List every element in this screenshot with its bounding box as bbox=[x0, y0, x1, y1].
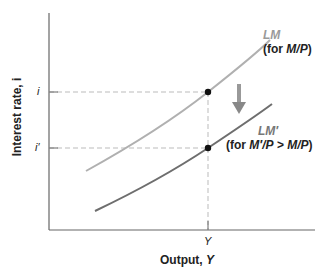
lmp-cond-pre: (for bbox=[226, 138, 249, 152]
x-axis-label-prefix: Output, bbox=[160, 253, 206, 267]
x-tick-y: Y bbox=[204, 235, 211, 247]
lm-prime-condition-label: (for M′/P > M/P) bbox=[226, 138, 313, 152]
lm-prime-curve bbox=[95, 104, 272, 211]
lm-condition-label: (for M/P) bbox=[263, 42, 312, 56]
lm-label: LM bbox=[263, 28, 280, 42]
lmp-cond-post: ) bbox=[309, 138, 313, 152]
y-tick-ip: i′ bbox=[35, 141, 40, 153]
lm-cond-var: M/P bbox=[286, 42, 307, 56]
shift-arrow-head bbox=[232, 102, 246, 114]
lm-prime-label: LM′ bbox=[258, 124, 278, 138]
lmp-cond-var2: M/P bbox=[287, 138, 308, 152]
x-axis-label-var: Y bbox=[206, 253, 214, 267]
lm-cond-pre: (for bbox=[263, 42, 286, 56]
lm-cond-post: ) bbox=[308, 42, 312, 56]
lmp-cond-var1: M′/P bbox=[249, 138, 273, 152]
y-tick-i: i bbox=[37, 85, 39, 97]
equilibrium-point-i bbox=[205, 89, 211, 95]
lmp-cond-op: > bbox=[274, 138, 288, 152]
y-axis-label: Interest rate, i bbox=[10, 62, 24, 172]
equilibrium-point-ip bbox=[205, 145, 211, 151]
x-axis-label: Output, Y bbox=[160, 253, 214, 267]
